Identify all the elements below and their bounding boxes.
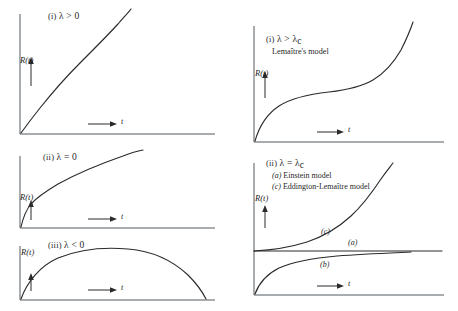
x-axis-label: t — [348, 279, 350, 288]
panel-condition: λ = 0 — [57, 152, 77, 162]
x-direction-arrow — [88, 287, 117, 293]
panel-index: (ii) — [266, 158, 277, 168]
x-direction-arrow — [88, 121, 117, 127]
panel-right-lemaitre: (i) λ > λc Lemaître's model R(t) t — [229, 12, 458, 160]
model-name-lemaitre: Lemaître's model — [272, 47, 329, 56]
panel-left-i-plot — [0, 0, 229, 148]
x-axis-label: t — [121, 117, 123, 126]
panel-left-lambda-negative: (iii) λ < 0 R(t) t — [0, 238, 229, 311]
panel-title-left-ii: (ii) λ = 0 — [43, 152, 77, 162]
panel-right-ii-plot — [229, 155, 458, 311]
panel-index: (iii) — [48, 240, 62, 250]
y-axis-label: R(t) — [20, 55, 33, 65]
curve-tag-c: (c) — [321, 227, 330, 236]
panel-right-i-plot — [229, 12, 458, 160]
panel-title-left-i: (i) λ > 0 — [48, 11, 79, 21]
panel-condition-subscript: c — [297, 36, 301, 46]
legend-key-a: (a) — [272, 171, 281, 180]
x-direction-arrow — [317, 283, 344, 289]
legend-item-c: (c) Eddington-Lemaître model — [272, 182, 370, 191]
x-axis-label: t — [121, 283, 123, 292]
panel-index: (i) — [266, 34, 275, 44]
y-axis-label: R(t) — [20, 192, 33, 202]
panel-condition-subscript: c — [300, 160, 304, 170]
figure-root: (i) λ > 0 R(t) t (ii) λ = 0 R(t) — [0, 0, 458, 311]
panel-index: (ii) — [43, 152, 54, 162]
panel-title-right-i: (i) λ > λc — [266, 34, 302, 46]
panel-condition: λ < 0 — [64, 240, 84, 250]
curve-lambda-zero — [21, 150, 143, 227]
y-axis-label: R(t) — [21, 247, 34, 257]
panel-right-einstein-eddington: (ii) λ = λc (a) Einstein model (c) Eddin… — [229, 155, 458, 311]
curve-b-asymptotic — [255, 252, 411, 294]
panel-left-ii-plot — [0, 148, 229, 238]
x-axis-label: t — [121, 212, 123, 221]
curve-tag-a: (a) — [348, 238, 357, 247]
curve-tag-b: (b) — [320, 260, 329, 269]
panel-left-lambda-zero: (ii) λ = 0 R(t) t — [0, 148, 229, 238]
panel-left-iii-plot — [0, 238, 229, 311]
panel-condition: λ > λ — [277, 34, 297, 44]
legend-label-a: Einstein model — [283, 171, 331, 180]
x-direction-arrow — [88, 216, 117, 222]
panel-title-left-iii: (iii) λ < 0 — [48, 240, 85, 250]
panel-title-right-ii: (ii) λ = λc — [266, 158, 304, 170]
x-direction-arrow — [317, 129, 344, 135]
panel-index: (i) — [48, 11, 57, 21]
panel-condition: λ = λ — [280, 158, 300, 168]
y-direction-arrow — [262, 205, 268, 228]
curve-lambda-positive — [21, 9, 131, 133]
panel-condition: λ > 0 — [59, 11, 79, 21]
legend-key-c: (c) — [272, 182, 281, 191]
legend-item-a: (a) Einstein model — [272, 171, 332, 180]
y-axis-label: R(t) — [255, 68, 268, 78]
x-axis-label: t — [348, 125, 350, 134]
panel-left-lambda-positive: (i) λ > 0 R(t) t — [0, 0, 229, 148]
y-axis-label: R(t) — [255, 193, 268, 203]
y-direction-arrow — [28, 200, 34, 220]
legend-label-c: Eddington-Lemaître model — [283, 182, 370, 191]
